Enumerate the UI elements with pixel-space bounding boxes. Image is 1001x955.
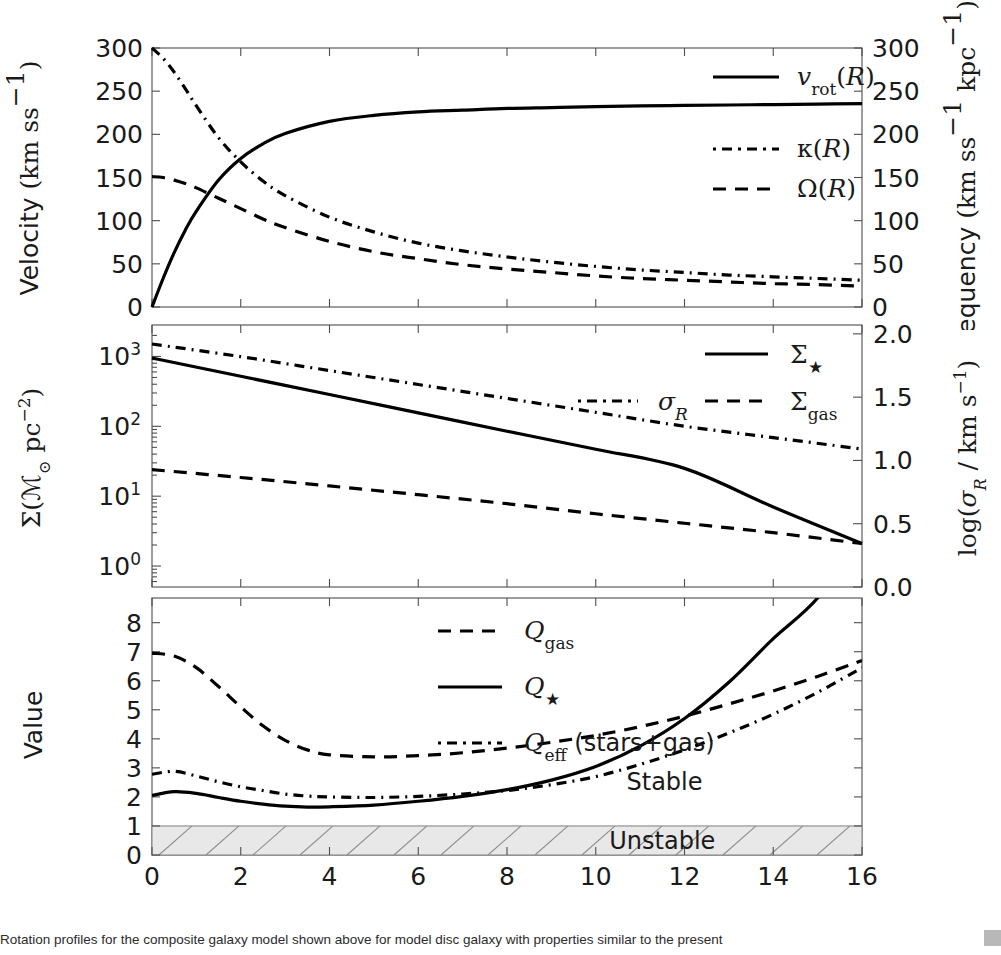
y-axis-label-right: log(σR / km s−1) bbox=[950, 360, 990, 557]
svg-text:1.5: 1.5 bbox=[873, 383, 913, 412]
plot-frame-mid bbox=[152, 325, 862, 587]
svg-text:1: 1 bbox=[126, 812, 142, 841]
legend-label: Ω(R) bbox=[797, 174, 856, 203]
svg-text:50: 50 bbox=[111, 250, 143, 279]
y-tick-label: 103 bbox=[98, 339, 141, 371]
svg-text:50: 50 bbox=[872, 250, 904, 279]
annotation-unstable: Unstable bbox=[609, 827, 715, 855]
svg-text:Velocity (km ss−1): Velocity (km ss−1) bbox=[1, 61, 45, 296]
svg-text:7: 7 bbox=[126, 638, 142, 667]
svg-text:16: 16 bbox=[846, 862, 878, 891]
annotation-stable: Stable bbox=[627, 768, 703, 796]
svg-text:Frequency (km ss−1 kpc−1): Frequency (km ss−1 kpc−1) bbox=[938, 0, 982, 330]
svg-text:Value: Value bbox=[19, 691, 48, 760]
svg-text:250: 250 bbox=[872, 77, 920, 106]
svg-text:8: 8 bbox=[126, 609, 142, 638]
svg-text:3: 3 bbox=[126, 754, 142, 783]
figure-caption: Rotation profiles for the composite gala… bbox=[0, 932, 1001, 947]
svg-text:2: 2 bbox=[126, 783, 142, 812]
svg-text:300: 300 bbox=[95, 34, 143, 63]
svg-text:4: 4 bbox=[126, 725, 142, 754]
svg-text:2: 2 bbox=[233, 862, 249, 891]
svg-text:1.0: 1.0 bbox=[873, 446, 913, 475]
svg-text:12: 12 bbox=[669, 862, 701, 891]
svg-text:200: 200 bbox=[95, 120, 143, 149]
figure-container: 050100150200250300050100150200250300Velo… bbox=[0, 0, 1001, 955]
y-tick-label: 102 bbox=[98, 409, 141, 441]
panel-surface-density: 1001011021030.00.51.01.52.0Σ(ℳ⊙ pc−2)log… bbox=[0, 318, 1001, 608]
svg-text:14: 14 bbox=[757, 862, 789, 891]
svg-text:100: 100 bbox=[872, 207, 920, 236]
y-axis-label-right: Frequency (km ss−1 kpc−1) bbox=[938, 0, 982, 330]
svg-text:250: 250 bbox=[95, 77, 143, 106]
panel-stability-q: 0123456780246810121416ValueRadius (kpc)S… bbox=[0, 595, 1001, 895]
svg-text:log(σR / km s−1): log(σR / km s−1) bbox=[950, 360, 990, 557]
svg-text:300: 300 bbox=[872, 34, 920, 63]
svg-text:6: 6 bbox=[410, 862, 426, 891]
svg-text:6: 6 bbox=[126, 667, 142, 696]
svg-text:4: 4 bbox=[322, 862, 338, 891]
svg-text:100: 100 bbox=[95, 207, 143, 236]
y-tick-label: 101 bbox=[98, 479, 141, 511]
svg-text:0: 0 bbox=[126, 841, 142, 870]
y-tick-label: 100 bbox=[98, 549, 141, 581]
svg-text:10: 10 bbox=[580, 862, 612, 891]
svg-text:5: 5 bbox=[126, 696, 142, 725]
y-axis-label: Value bbox=[19, 691, 48, 760]
svg-text:8: 8 bbox=[499, 862, 515, 891]
svg-text:2.0: 2.0 bbox=[873, 320, 913, 349]
svg-text:Σ(ℳ⊙ pc−2): Σ(ℳ⊙ pc−2) bbox=[14, 388, 54, 529]
panel-rotation-curve: 050100150200250300050100150200250300Velo… bbox=[0, 0, 1001, 330]
page-corner-marker bbox=[984, 930, 1001, 946]
svg-text:0.5: 0.5 bbox=[873, 510, 913, 539]
svg-text:0: 0 bbox=[144, 862, 160, 891]
svg-text:200: 200 bbox=[872, 120, 920, 149]
y-axis-label-left: Σ(ℳ⊙ pc−2) bbox=[14, 388, 54, 529]
legend-label: κ(R) bbox=[797, 134, 851, 163]
svg-text:150: 150 bbox=[95, 164, 143, 193]
plot-frame-bot bbox=[152, 598, 862, 855]
y-axis-label-left: Velocity (km ss−1) bbox=[1, 61, 45, 296]
svg-text:150: 150 bbox=[872, 164, 920, 193]
